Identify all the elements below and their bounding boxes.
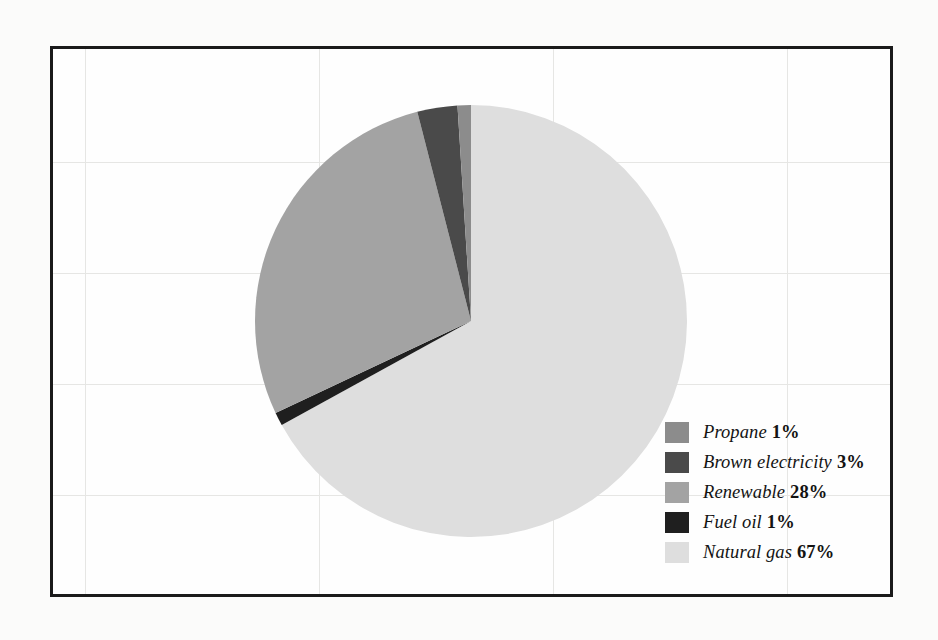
- legend-item: Propane1%: [665, 417, 895, 447]
- legend-swatch: [665, 452, 689, 473]
- legend-swatch: [665, 512, 689, 533]
- legend-label: Renewable28%: [703, 482, 827, 503]
- chart-frame: Propane1%Brown electricity3%Renewable28%…: [50, 46, 893, 597]
- legend-swatch: [665, 422, 689, 443]
- legend-percent: 28%: [790, 482, 827, 502]
- pie-slice-group: [255, 105, 687, 537]
- legend-percent: 3%: [837, 452, 865, 472]
- figure-page: Propane1%Brown electricity3%Renewable28%…: [0, 0, 938, 640]
- legend-item: Fuel oil1%: [665, 507, 895, 537]
- legend-swatch: [665, 542, 689, 563]
- legend-percent: 1%: [767, 512, 795, 532]
- legend-swatch: [665, 482, 689, 503]
- legend-label: Propane1%: [703, 422, 800, 443]
- chart-legend: Propane1%Brown electricity3%Renewable28%…: [665, 417, 895, 567]
- legend-percent: 1%: [772, 422, 800, 442]
- legend-item: Natural gas67%: [665, 537, 895, 567]
- legend-percent: 67%: [797, 542, 834, 562]
- legend-label: Brown electricity3%: [703, 452, 865, 473]
- legend-label: Natural gas67%: [703, 542, 834, 563]
- legend-item: Brown electricity3%: [665, 447, 895, 477]
- legend-item: Renewable28%: [665, 477, 895, 507]
- legend-label: Fuel oil1%: [703, 512, 795, 533]
